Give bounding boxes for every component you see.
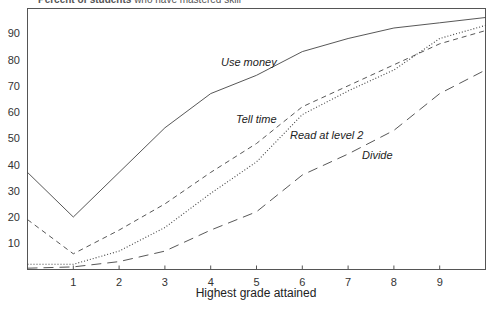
line-chart: 102030405060708090123456789 Use moneyTel… xyxy=(0,0,495,310)
y-tick-label: 90 xyxy=(8,27,20,39)
chart-axes: 102030405060708090123456789 xyxy=(8,9,486,288)
x-axis-label: Highest grade attained xyxy=(196,286,317,300)
y-tick-label: 80 xyxy=(8,54,20,66)
series-label-read-at-level-2: Read at level 2 xyxy=(290,129,363,141)
x-tick-label: 1 xyxy=(70,276,76,288)
series-labels: Use moneyTell timeRead at level 2Divide xyxy=(221,56,393,161)
x-tick-label: 7 xyxy=(345,276,351,288)
series-line-divide xyxy=(28,70,486,268)
plot-frame xyxy=(28,9,486,270)
y-tick-label: 10 xyxy=(8,237,20,249)
y-tick-label: 60 xyxy=(8,106,20,118)
x-tick-label: 3 xyxy=(162,276,168,288)
series-label-use-money: Use money xyxy=(221,56,278,68)
y-tick-label: 30 xyxy=(8,185,20,197)
series-label-tell-time: Tell time xyxy=(236,113,277,125)
y-tick-label: 50 xyxy=(8,132,20,144)
x-tick-label: 8 xyxy=(391,276,397,288)
series-label-divide: Divide xyxy=(362,149,393,161)
y-tick-label: 20 xyxy=(8,211,20,223)
x-tick-label: 9 xyxy=(437,276,443,288)
y-tick-label: 40 xyxy=(8,159,20,171)
x-tick-label: 2 xyxy=(116,276,122,288)
y-tick-label: 70 xyxy=(8,80,20,92)
